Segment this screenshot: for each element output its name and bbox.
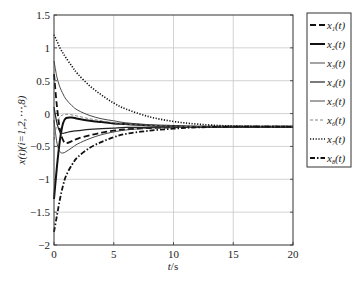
svg-text:x1(t): x1(t) (326, 19, 346, 32)
grid-lines (54, 15, 293, 245)
y-tick-label: −0.5 (30, 140, 50, 152)
svg-text:x6(t): x6(t) (326, 114, 346, 127)
x-tick-label: 10 (168, 248, 180, 260)
y-tick-label: 1.5 (36, 9, 50, 21)
y-tick-label: 0 (45, 108, 51, 120)
x-tick-label: 15 (228, 248, 240, 260)
y-tick-label: −2 (38, 239, 50, 251)
svg-text:x8(t): x8(t) (326, 152, 346, 165)
y-tick-label: 1 (45, 42, 51, 54)
svg-text:x5(t): x5(t) (326, 95, 346, 108)
x-axis-label: t/s (168, 260, 178, 272)
y-tick-label: −1 (38, 173, 50, 185)
y-axis-label: x(t)(i=1,2,⋯,8) (15, 95, 28, 165)
x-tick-label: 5 (111, 248, 117, 260)
x-tick-label: 20 (288, 248, 300, 260)
svg-text:x3(t): x3(t) (326, 57, 346, 70)
y-tick-label: −1.5 (30, 206, 50, 218)
legend: x1(t)x2(t)x3(t)x4(t)x5(t)x6(t)x7(t)x8(t) (307, 13, 351, 167)
svg-text:x2(t): x2(t) (326, 38, 346, 51)
chart: 05101520 −2−1.5−1−0.500.511.5 t/s x(t)(i… (0, 0, 357, 283)
y-tick-label: 0.5 (36, 75, 50, 87)
x-tick-label: 0 (51, 248, 57, 260)
svg-text:x4(t): x4(t) (326, 76, 346, 89)
svg-text:x7(t): x7(t) (326, 133, 346, 146)
